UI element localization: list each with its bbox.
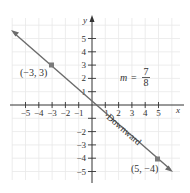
x-tick-label: 5 [156, 108, 161, 118]
svg-text:m: m [120, 72, 127, 83]
y-tick-label: −5 [76, 167, 86, 177]
point-label-1: (−3, 3) [20, 67, 47, 79]
y-tick-label: −4 [76, 153, 86, 163]
point-marker-neg3-3 [49, 63, 54, 68]
x-tick-label: −1 [74, 108, 84, 118]
direction-label: Downward [105, 112, 144, 147]
x-tick-label: −4 [34, 108, 44, 118]
x-axis: −5 −4 −3 −2 −1 1 2 3 4 5 x [10, 102, 184, 118]
x-tick-label: 3 [130, 108, 135, 118]
slope-denominator: 8 [144, 77, 149, 88]
point-marker-5-neg4 [155, 157, 160, 162]
x-tick-label: −2 [61, 108, 71, 118]
slope-numerator: 7 [144, 66, 149, 77]
y-tick-label: 3 [82, 60, 87, 70]
y-tick-label: −2 [76, 127, 86, 137]
coordinate-plane: −5 −4 −3 −2 −1 1 2 3 4 5 x 5 4 3 2 1 [0, 0, 190, 193]
y-tick-label: 4 [82, 47, 87, 57]
y-axis-arrow-icon [90, 15, 95, 22]
slope-annotation: m = 7 8 [120, 66, 150, 88]
y-tick-label: −3 [76, 140, 86, 150]
x-tick-label: −3 [47, 108, 57, 118]
point-label-2: (5, −4) [131, 163, 158, 175]
y-tick-label: 5 [82, 34, 87, 44]
slope-equals: = [131, 72, 137, 83]
y-tick-label: 2 [82, 73, 87, 83]
y-axis-label: y [82, 15, 87, 25]
x-tick-label: −5 [21, 108, 31, 118]
x-tick-label: 4 [143, 108, 148, 118]
slope-m: m [120, 72, 127, 83]
x-axis-label: x [175, 105, 180, 115]
